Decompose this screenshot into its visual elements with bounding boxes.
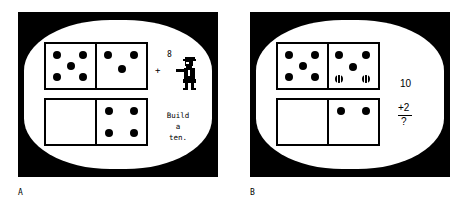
panel-caption-b: B: [250, 188, 255, 197]
dot: [118, 65, 126, 73]
math-expression-b: 10 +2 ?: [398, 78, 412, 128]
tenframe-cell-bottom-left: [276, 98, 329, 146]
tenframe-cell-top-left: [276, 42, 329, 90]
dot: [53, 51, 61, 59]
instruction-line-1: Build: [150, 110, 206, 121]
panel-a: 8 +: [18, 12, 218, 177]
dot: [349, 63, 357, 71]
dot: [105, 129, 113, 137]
dot-flashing: [335, 75, 343, 83]
dot: [335, 51, 343, 59]
instruction-text-a: Build a ten.: [150, 110, 206, 143]
plus-sign-a: +: [155, 66, 160, 75]
tenframe-a: [44, 42, 150, 146]
math-answer: ?: [398, 116, 412, 128]
tenframe-cell-bottom-right: [327, 98, 380, 146]
panel-b: 10 +2 ?: [250, 12, 450, 177]
count-label-a: 8: [167, 50, 172, 59]
dot: [285, 51, 293, 59]
dot: [362, 107, 370, 115]
dot: [104, 51, 112, 59]
dot: [130, 107, 138, 115]
tenframe-b: [276, 42, 382, 146]
figure-root: 8 +: [0, 0, 467, 206]
dot-flashing: [362, 75, 370, 83]
dot: [130, 51, 138, 59]
dot: [285, 73, 293, 81]
tenframe-cell-top-right: [327, 42, 380, 90]
dot: [362, 51, 370, 59]
dot: [67, 62, 75, 70]
crt-screen-a: 8 +: [24, 20, 212, 169]
instruction-line-3: ten.: [150, 132, 206, 143]
math-total: 10: [398, 78, 412, 90]
dot: [53, 73, 61, 81]
dot: [79, 51, 87, 59]
tenframe-cell-bottom-left: [44, 98, 97, 146]
dot: [311, 51, 319, 59]
panel-caption-a: A: [18, 188, 23, 197]
dot: [311, 73, 319, 81]
tenframe-cell-top-right: [95, 42, 148, 90]
dot: [130, 129, 138, 137]
math-addend: +2: [398, 102, 412, 116]
crt-screen-b: 10 +2 ?: [256, 20, 444, 169]
teacher-figure-icon: [176, 56, 202, 90]
dot: [337, 107, 345, 115]
dot: [105, 107, 113, 115]
dot: [79, 73, 87, 81]
tenframe-cell-bottom-right: [95, 98, 148, 146]
dot: [299, 62, 307, 70]
tenframe-cell-top-left: [44, 42, 97, 90]
instruction-line-2: a: [150, 121, 206, 132]
